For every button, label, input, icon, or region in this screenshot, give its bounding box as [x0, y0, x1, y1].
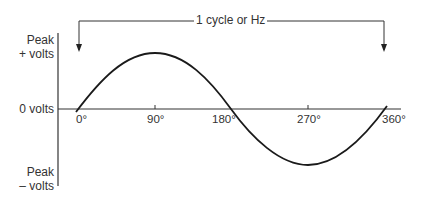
tick-label-0: 0° — [76, 113, 87, 125]
arrow-down-icon — [381, 44, 387, 52]
tick-label-360: 360° — [382, 113, 406, 125]
peak-negative-line1: Peak — [6, 165, 54, 179]
arrow-down-icon — [76, 44, 82, 52]
cycle-label: 1 cycle or Hz — [194, 13, 267, 27]
tick-label-270: 270° — [297, 113, 321, 125]
peak-positive-line1: Peak — [6, 33, 54, 47]
sine-wave-diagram: 1 cycle or Hz Peak + volts 0 volts Peak … — [0, 0, 424, 203]
tick-label-180: 180° — [212, 113, 236, 125]
sine-wave-graphic — [0, 0, 424, 203]
peak-negative-label: Peak – volts — [6, 165, 54, 193]
peak-positive-label: Peak + volts — [6, 33, 54, 61]
peak-negative-line2: – volts — [6, 179, 54, 193]
zero-volts-label: 0 volts — [2, 102, 54, 116]
peak-positive-line2: + volts — [6, 47, 54, 61]
tick-label-90: 90° — [147, 113, 164, 125]
